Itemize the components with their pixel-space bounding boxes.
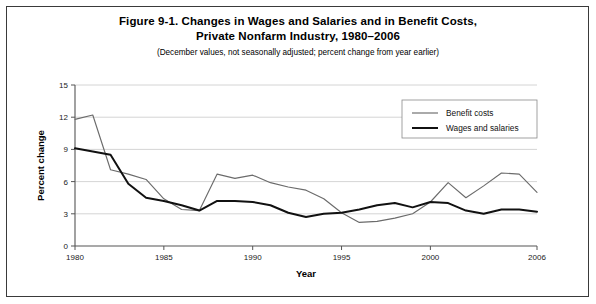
legend-label-wages-and-salaries: Wages and salaries [446, 123, 519, 133]
x-axis-ticks-group: 198019851990199520002006 [66, 246, 546, 262]
legend-label-benefit-costs: Benefit costs [446, 108, 494, 118]
y-tick-label-3: 3 [64, 210, 69, 219]
x-tick-label-2000: 2000 [421, 253, 439, 262]
y-tick-label-12: 12 [59, 113, 68, 122]
x-tick-label-1980: 1980 [66, 253, 84, 262]
chart-area: 03691215 198019851990199520002006 Percen… [0, 0, 596, 304]
series-line-wages-and-salaries [75, 148, 537, 217]
y-axis-ticks-group: 03691215 [59, 81, 75, 251]
x-axis-title: Year [296, 268, 316, 279]
y-tick-label-15: 15 [59, 81, 68, 90]
line-chart-svg: 03691215 198019851990199520002006 Percen… [0, 0, 596, 304]
y-tick-label-0: 0 [64, 242, 69, 251]
x-tick-label-1995: 1995 [333, 253, 351, 262]
x-tick-label-1990: 1990 [244, 253, 262, 262]
x-tick-label-2006: 2006 [528, 253, 546, 262]
y-tick-label-9: 9 [64, 145, 69, 154]
x-tick-label-1985: 1985 [155, 253, 173, 262]
chart-legend: Benefit costsWages and salaries [402, 100, 537, 138]
y-tick-label-6: 6 [64, 178, 69, 187]
y-axis-title: Percent change [35, 130, 46, 201]
